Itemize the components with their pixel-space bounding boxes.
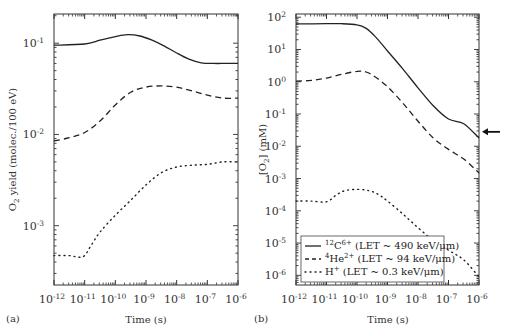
y-tick-label: 10-4 (265, 204, 287, 218)
y-tick-label: 10-5 (265, 236, 287, 250)
panel-b-chart: 10-1210-1110-1010-910-810-710-610-610-51… (257, 10, 488, 306)
x-tick-label: 10-6 (466, 292, 488, 306)
x-tick-label: 10-12 (281, 292, 307, 306)
y-tick-label: 10-2 (23, 127, 45, 141)
x-tick-label: 10-11 (311, 292, 337, 306)
x-tick-label: 10-7 (436, 292, 458, 306)
panel-b-x-axis-label: Time (s) (367, 314, 408, 325)
y-axis-label: O2 yield (molec./100 eV) (7, 88, 21, 211)
y-tick-label: 10-1 (23, 36, 44, 50)
x-tick-label: 10-10 (100, 292, 126, 306)
x-tick-label: 10-10 (342, 292, 368, 306)
plot-frame (54, 14, 238, 285)
x-tick-label: 10-11 (70, 292, 96, 306)
x-tick-label: 10-7 (195, 292, 217, 306)
series-line-solid (296, 24, 479, 138)
arrow-annotation (482, 128, 500, 135)
legend-entry: H+ (LET ~ 0.3 keV/μm) (325, 265, 444, 277)
x-tick-label: 10-8 (164, 292, 186, 306)
figure: 10-1210-1110-1010-910-810-710-610-310-21… (0, 0, 509, 334)
legend: 12C6+ (LET ~ 490 keV/μm)4He2+ (LET ~ 94 … (301, 236, 459, 282)
panel-b-label: (b) (254, 313, 268, 324)
y-tick-label: 10-6 (265, 268, 287, 282)
y-tick-label: 10-3 (23, 219, 45, 233)
series-line-dotted (54, 162, 238, 258)
series-line-dashed (296, 71, 479, 173)
series-line-dashed (54, 86, 238, 141)
x-tick-label: 10-6 (225, 292, 247, 306)
y-tick-label: 10-1 (265, 107, 286, 121)
x-tick-label: 10-8 (405, 292, 427, 306)
x-tick-label: 10-9 (375, 292, 397, 306)
panel-a-label: (a) (6, 313, 20, 324)
x-tick-label: 10-12 (39, 292, 65, 306)
y-tick-label: 101 (267, 42, 286, 56)
panel-a-x-axis-label: Time (s) (125, 314, 166, 325)
series-line-solid (54, 35, 238, 64)
x-tick-label: 10-9 (133, 292, 155, 306)
panel-a-chart: 10-1210-1110-1010-910-810-710-610-310-21… (7, 14, 247, 306)
y-tick-label: 100 (267, 75, 286, 89)
y-tick-label: 102 (267, 10, 286, 24)
